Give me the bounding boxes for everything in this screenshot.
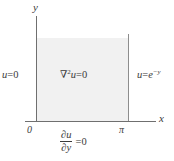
right-boundary-line <box>128 34 129 122</box>
x-axis-label: x <box>159 113 164 124</box>
partial-derivative-fraction: ∂u ∂y <box>60 129 72 154</box>
fraction-denominator: ∂y <box>60 142 72 153</box>
right-boundary-condition: u=e−y <box>137 70 161 81</box>
boundary-value-problem-figure: y x 0 π u=0 ∇2u=0 u=e−y ∂u ∂y =0 <box>0 0 174 161</box>
x-tick-label-pi: π <box>119 125 124 135</box>
x-axis-line <box>25 121 156 122</box>
left-boundary-condition: u=0 <box>2 70 18 81</box>
bottom-bc-value: 0 <box>81 136 86 147</box>
fraction-numerator: ∂u <box>60 129 72 140</box>
right-bc-exponent: −y <box>153 68 161 76</box>
bottom-bc-equality: =0 <box>75 136 86 147</box>
origin-label: 0 <box>27 125 32 135</box>
interior-equation: ∇2u=0 <box>60 70 87 81</box>
left-bc-value: 0 <box>13 69 18 80</box>
interior-value: 0 <box>82 69 87 80</box>
y-axis-line <box>36 16 37 122</box>
bottom-boundary-condition: ∂u ∂y =0 <box>60 129 87 154</box>
y-axis-label: y <box>33 2 38 13</box>
